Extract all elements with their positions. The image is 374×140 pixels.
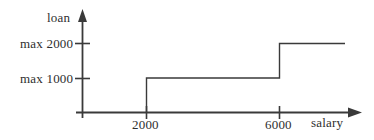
x-axis-arrowhead [348,108,362,118]
y-axis-label: loan [47,11,70,24]
y-tick-label-max-2000: max 2000 [20,37,73,50]
x-axis-label: salary [311,116,343,129]
x-tick-label-6000: 6000 [265,118,292,131]
chart-figure: loan salary max 2000 max 1000 2000 6000 [0,0,374,140]
step-function-curve [147,44,346,113]
x-tick-label-2000: 2000 [132,118,159,131]
y-axis-arrowhead [78,9,87,22]
y-tick-label-max-1000: max 1000 [20,72,73,85]
